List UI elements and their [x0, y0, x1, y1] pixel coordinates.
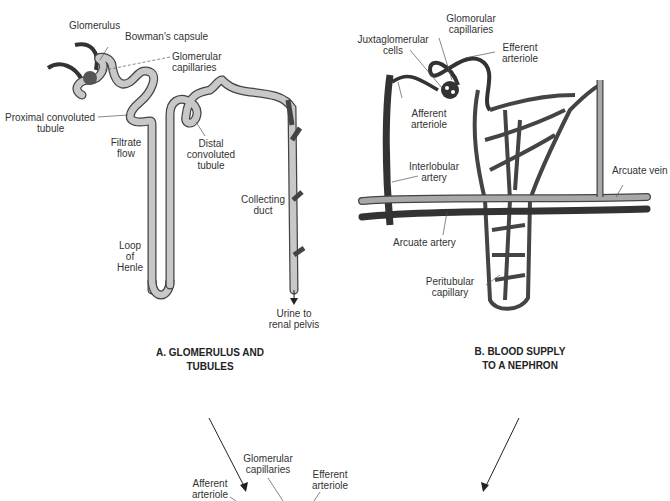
panel-a-title-1: A. GLOMERULUS AND — [145, 346, 275, 360]
label-proximal-1: Proximal convoluted — [5, 112, 95, 123]
label-urine-2: renal pelvis — [264, 319, 324, 330]
label-glomerular-capillaries-b2: capillaries — [436, 24, 506, 35]
label-efferent-b1: Efferent — [495, 42, 545, 53]
label-loop-1: Loop — [112, 240, 148, 251]
label-distal-2: convoluted — [183, 149, 239, 160]
label-juxta-1: Juxtaglomerular — [354, 34, 432, 45]
panel-a-drawing — [48, 44, 304, 305]
label-afferent-c2: arteriole — [185, 489, 235, 500]
label-glomerular-capillaries-b1: Glomorular — [436, 13, 506, 24]
nephron-diagram — [0, 0, 670, 501]
label-afferent-b2: arteriole — [404, 119, 454, 130]
label-filtrate-2: flow — [108, 148, 144, 159]
label-distal-1: Distal — [183, 138, 239, 149]
label-efferent-b2: arteriole — [495, 53, 545, 64]
label-glomerulus: Glomerulus — [69, 20, 120, 31]
label-glomerular-capillaries-a1: Glomerular — [172, 51, 221, 62]
label-interlobular-2: artery — [404, 172, 464, 183]
panel-b-title-2: TO A NEPHRON — [455, 359, 585, 373]
label-interlobular-1: Interlobular — [404, 161, 464, 172]
label-juxta-2: cells — [354, 45, 432, 56]
label-proximal-2: tubule — [37, 123, 64, 134]
label-arcuate-artery: Arcuate artery — [393, 237, 456, 248]
label-glomerular-c1: Glomerular — [236, 453, 300, 464]
label-arcuate-vein: Arcuate vein — [612, 165, 668, 176]
label-distal-3: tubule — [183, 160, 239, 171]
label-collecting-1: Collecting — [238, 194, 288, 205]
label-afferent-b1: Afferent — [404, 108, 454, 119]
label-glomerular-capillaries-a2: capillaries — [172, 62, 216, 73]
label-collecting-2: duct — [238, 205, 288, 216]
label-peritubular-1: Peritubular — [420, 276, 480, 287]
label-loop-3: Henle — [112, 262, 148, 273]
panel-b-title-1: B. BLOOD SUPPLY — [455, 345, 585, 359]
label-efferent-c2: arteriole — [305, 480, 355, 491]
label-glomerular-c2: capillaries — [236, 464, 300, 475]
label-bowmans-capsule: Bowman's capsule — [125, 31, 208, 42]
panel-a-title-2: TUBULES — [145, 360, 275, 374]
label-afferent-c1: Afferent — [185, 478, 235, 489]
label-filtrate-1: Filtrate — [108, 137, 144, 148]
label-urine-1: Urine to — [264, 308, 324, 319]
label-loop-2: of — [112, 251, 148, 262]
label-peritubular-2: capillary — [420, 287, 480, 298]
label-efferent-c1: Efferent — [305, 469, 355, 480]
